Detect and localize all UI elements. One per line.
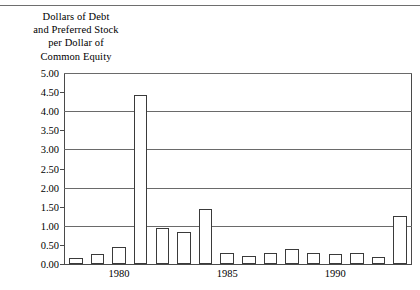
- y-tick-label: 3.00: [19, 144, 59, 155]
- plot-right-edge: [411, 73, 412, 265]
- bar: [177, 232, 190, 264]
- bar: [285, 249, 298, 264]
- bar: [91, 254, 104, 264]
- y-tick-mark: [60, 169, 65, 170]
- y-tick-label: 2.50: [19, 163, 59, 174]
- y-tick-mark: [60, 130, 65, 131]
- x-tick-label: 1985: [217, 268, 238, 279]
- header-divider: [0, 5, 420, 6]
- x-tick-label: 1990: [325, 268, 346, 279]
- chart-title-line-1: Dollars of Debt: [6, 10, 146, 23]
- y-tick-mark: [60, 207, 65, 208]
- x-tick-label: 1980: [109, 268, 130, 279]
- chart-title-line-4: Common Equity: [6, 50, 146, 63]
- y-tick-label: 1.50: [19, 201, 59, 212]
- bar: [156, 228, 169, 264]
- chart-title-line-2: and Preferred Stock: [6, 23, 146, 36]
- y-tick-mark: [60, 245, 65, 246]
- gridline: [64, 111, 412, 112]
- bar: [372, 257, 385, 264]
- y-tick-label: 2.00: [19, 182, 59, 193]
- bar: [264, 253, 277, 264]
- y-tick-label: 0.00: [19, 259, 59, 270]
- bar: [199, 209, 212, 264]
- y-tick-label: 1.00: [19, 220, 59, 231]
- y-tick-label: 0.50: [19, 239, 59, 250]
- chart-title-line-3: per Dollar of: [6, 36, 146, 49]
- y-tick-label: 4.50: [19, 87, 59, 98]
- bar: [134, 95, 147, 264]
- y-tick-label: 3.50: [19, 125, 59, 136]
- y-tick-label: 5.00: [19, 68, 59, 79]
- bar: [69, 258, 82, 264]
- y-tick-mark: [60, 264, 65, 265]
- chart-figure: Dollars of Debt and Preferred Stock per …: [0, 0, 420, 290]
- bar: [307, 253, 320, 264]
- bar: [112, 247, 125, 264]
- bar: [393, 216, 406, 264]
- bar: [350, 253, 363, 264]
- x-axis-line: [64, 264, 412, 265]
- y-tick-label: 4.00: [19, 106, 59, 117]
- chart-title: Dollars of Debt and Preferred Stock per …: [6, 10, 146, 63]
- gridline: [64, 73, 412, 74]
- bar: [220, 253, 233, 264]
- gridline: [64, 188, 412, 189]
- gridline: [64, 226, 412, 227]
- plot-area: 0.000.501.001.502.002.503.003.504.004.50…: [64, 73, 412, 265]
- bar: [242, 256, 255, 264]
- gridline: [64, 149, 412, 150]
- y-tick-mark: [60, 92, 65, 93]
- bar: [329, 254, 342, 264]
